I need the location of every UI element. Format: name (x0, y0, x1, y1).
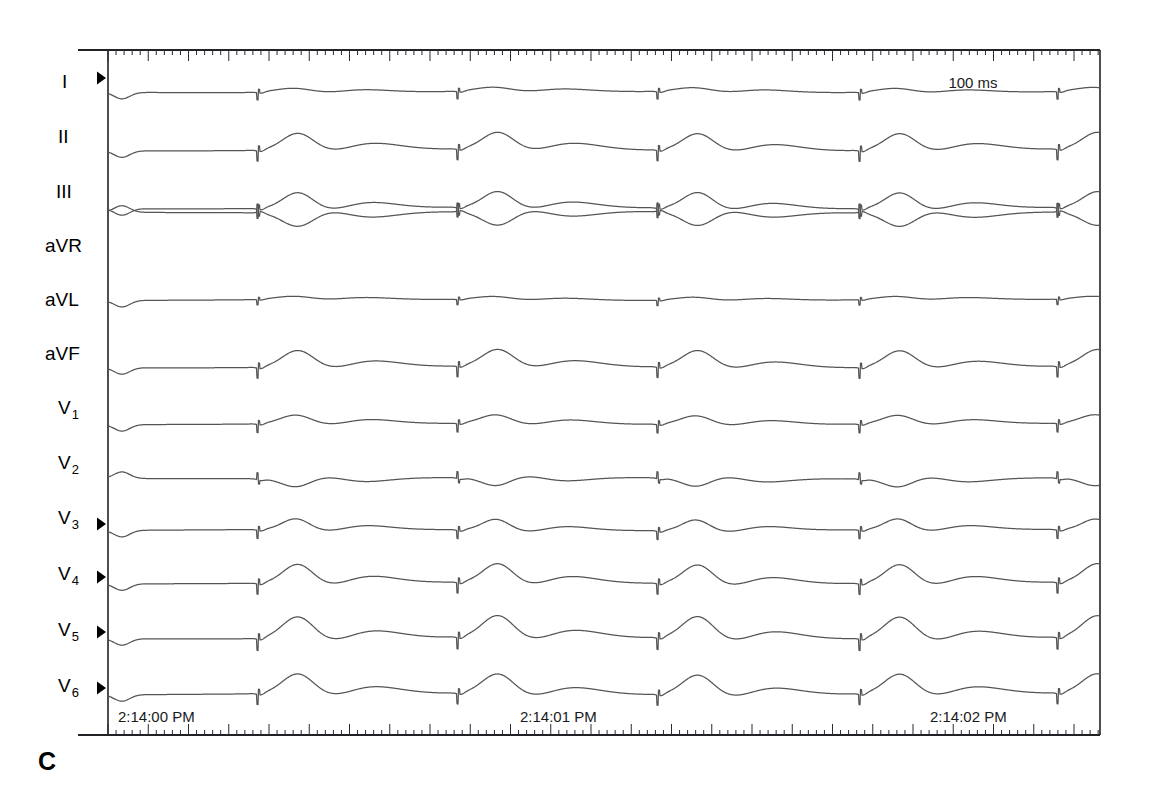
ecg-traces (108, 87, 1100, 705)
lead-label-v1: V1 (58, 397, 79, 422)
lead-subscript: 3 (72, 517, 79, 532)
lead-label-avr: aVR (45, 235, 82, 256)
lead-marker-triangle (97, 571, 106, 584)
lead-label-avl: aVL (45, 289, 79, 310)
time-axis-label: 2:14:01 PM (520, 708, 597, 725)
lead-label-v6: V6 (58, 675, 79, 700)
lead-subscript: 6 (72, 685, 79, 700)
lead-subscript: 4 (72, 573, 79, 588)
time-axis-label: 2:14:02 PM (930, 708, 1007, 725)
chart-frame (78, 50, 1100, 735)
trace-lead-v4 (108, 564, 1100, 595)
lead-label-v5: V5 (58, 619, 79, 644)
lead-label-i: I (62, 71, 67, 92)
lead-subscript: 5 (72, 629, 79, 644)
time-axis-labels: 2:14:00 PM2:14:01 PM2:14:02 PM (118, 708, 1007, 725)
trace-lead-avf (108, 349, 1100, 378)
trace-lead-v5 (108, 616, 1100, 651)
trace-lead-v2 (108, 471, 1100, 486)
bottom-time-ruler (108, 724, 1098, 735)
ecg-figure: IIIIIIaVRaVLaVFV1V2V3V4V5V6 2:14:00 PM2:… (0, 0, 1152, 802)
lead-label-iii: III (56, 181, 72, 202)
trace-lead-v1 (108, 415, 1100, 433)
lead-marker-triangle (97, 682, 106, 695)
ecg-canvas: IIIIIIaVRaVLaVFV1V2V3V4V5V6 2:14:00 PM2:… (0, 0, 1152, 802)
lead-markers (97, 72, 106, 695)
lead-label-v3: V3 (58, 507, 79, 532)
lead-label-avf: aVF (45, 343, 80, 364)
top-time-ruler (108, 50, 1098, 61)
lead-marker-triangle (97, 72, 106, 85)
trace-lead-v3 (108, 519, 1100, 540)
lead-label-v4: V4 (58, 563, 79, 588)
trace-lead-ii (108, 132, 1100, 161)
lead-subscript: 2 (72, 462, 79, 477)
lead-labels: IIIIIIaVRaVLaVFV1V2V3V4V5V6 (45, 71, 82, 700)
scale-annotation: 100 ms (948, 74, 997, 91)
time-axis-label: 2:14:00 PM (118, 708, 195, 725)
trace-lead-avl (108, 296, 1100, 307)
lead-label-ii: II (58, 126, 69, 147)
trace-lead-v6 (108, 674, 1100, 706)
lead-marker-triangle (97, 626, 106, 639)
panel-label: C (38, 747, 56, 775)
lead-subscript: 1 (72, 407, 79, 422)
lead-label-v2: V2 (58, 452, 79, 477)
lead-marker-triangle (97, 518, 106, 531)
